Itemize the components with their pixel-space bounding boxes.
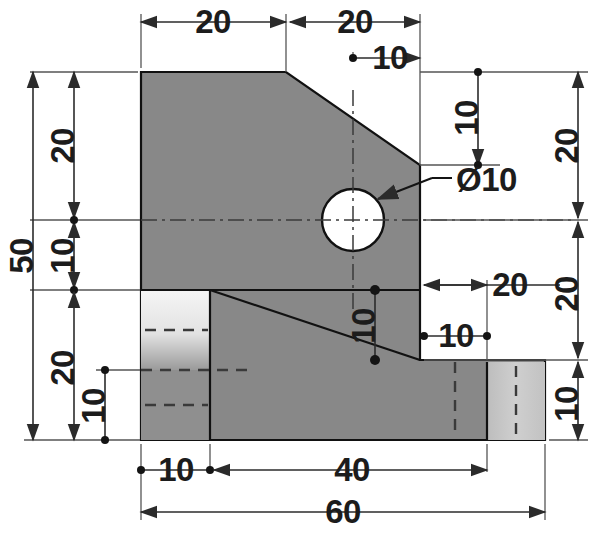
dim-label-right-20-upper: 20 [548,128,585,164]
dimension-bottom-60-group: 60 [141,493,545,530]
dim-label-left-20-upper: 20 [44,128,81,164]
dim-dot-left-10b-bot [101,436,109,444]
dim-dot-inner-10-bot [370,355,380,365]
dim-label-right-20: 20 [492,266,528,303]
dim-label-hole-10: 10 [372,39,408,76]
dim-dot-bottom-10-left [137,466,145,474]
engineering-drawing-svg: 20 20 10 10 Ø10 20 [0,0,616,533]
dim-label-bottom-60: 60 [325,493,361,530]
dim-label-left-10-bottom: 10 [75,388,112,424]
dim-dot-bottom-10-right [206,466,214,474]
dim-dot-hole-10 [349,54,357,62]
dimension-left-50-group: 50 [3,72,40,440]
dim-label-bottom-40: 40 [334,451,370,488]
dim-dot-left-10-top [70,216,78,224]
dimension-hole-horizontal-group: 10 [349,39,420,76]
dimension-left-chain-group: 20 10 20 [44,72,81,440]
dim-label-right-10-lower: 10 [548,386,585,422]
dim-dot-inner-10-top [370,285,380,295]
dim-dot-right-10h-end [483,332,491,340]
dimension-top-group: 20 20 [141,3,420,40]
dim-label-top-right-20: 20 [337,3,373,40]
dim-label-right-upper-10: 10 [448,100,485,136]
dim-label-left-10-mid: 10 [44,238,81,274]
dim-label-bottom-10: 10 [158,451,194,488]
dimension-right-20-horizontal-group: 20 [424,266,560,303]
technical-drawing-canvas: 20 20 10 10 Ø10 20 [0,0,616,533]
dimension-right-upper-10-group: 10 [448,68,485,169]
dim-dot-left-10b-top [101,366,109,374]
dim-label-inner-10: 10 [345,308,382,344]
dimension-right-vertical-chain-group: 20 20 10 [548,72,585,440]
dim-label-left-20-lower: 20 [44,350,81,386]
dim-dot-right-10h-start [420,332,428,340]
dim-dot-right-upper-10 [474,68,482,76]
dim-label-right-20-lower: 20 [548,276,585,312]
hole-callout-label: Ø10 [456,161,517,198]
dim-label-top-left-20: 20 [195,3,231,40]
dimension-bottom-chain-group: 10 40 [137,451,487,488]
dimension-right-10-horizontal-group: 10 [420,317,491,354]
dim-label-left-50: 50 [3,238,40,274]
dim-label-right-10h: 10 [438,317,474,354]
